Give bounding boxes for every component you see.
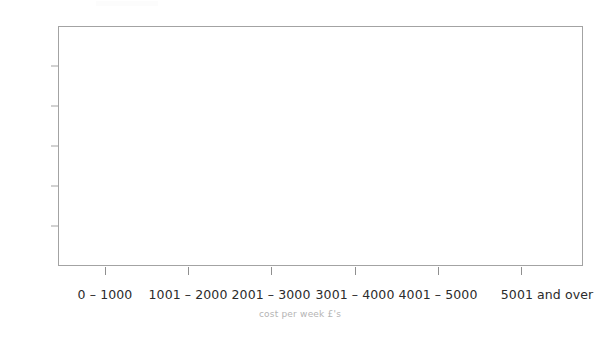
x-tick-label: 2001 – 3000	[232, 287, 311, 302]
plot-interior	[59, 27, 582, 265]
x-tick-label: 3001 – 4000	[316, 287, 395, 302]
x-tick-label: 4001 – 5000	[399, 287, 478, 302]
x-axis-title: cost per week £'s	[0, 309, 600, 319]
y-tick-mark	[51, 146, 58, 147]
y-tick-mark	[51, 226, 58, 227]
x-tick-mark	[355, 267, 356, 275]
y-tick-mark	[51, 106, 58, 107]
y-axis: 60 50 40 30 20 10 0	[0, 0, 58, 338]
x-tick-mark	[438, 267, 439, 275]
x-tick-label: 5001 and over	[501, 287, 593, 302]
x-tick-label: 1001 – 2000	[149, 287, 228, 302]
plot-area	[58, 26, 583, 266]
x-tick-mark	[188, 267, 189, 275]
bar-chart: 60 50 40 30 20 10 0 0 – 1000 1001 – 2000…	[0, 0, 600, 338]
x-tick-mark	[271, 267, 272, 275]
x-tick-label: 0 – 1000	[78, 287, 133, 302]
chart-title-artifact	[96, 1, 158, 6]
x-tick-mark	[521, 267, 522, 275]
x-tick-mark	[105, 267, 106, 275]
y-tick-mark	[51, 66, 58, 67]
y-tick-mark	[51, 186, 58, 187]
